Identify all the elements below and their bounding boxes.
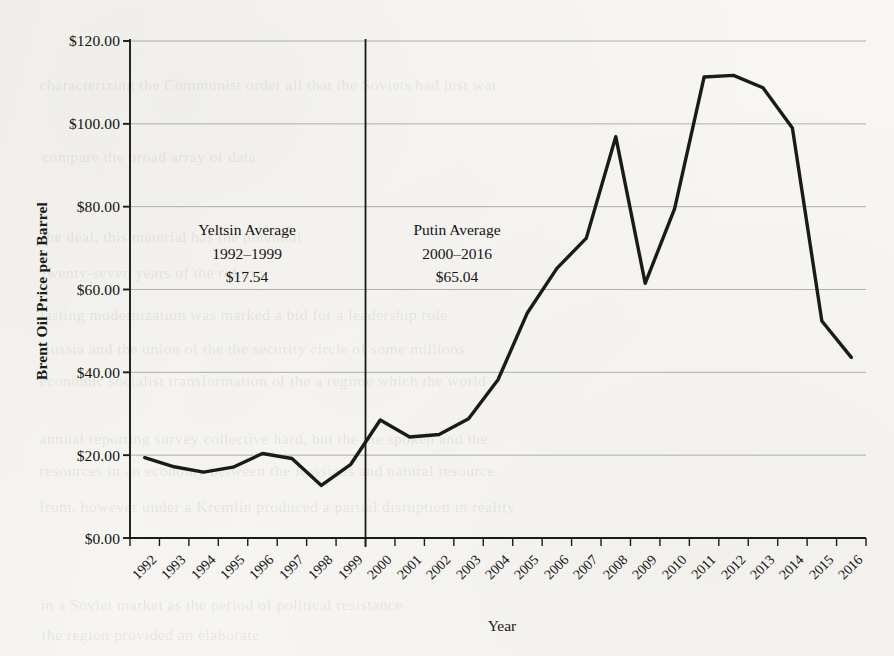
putin-label: Putin Average [372, 218, 542, 242]
putin-average: $65.04 [372, 265, 542, 289]
brent-oil-price-line-chart: Brent Oil Price per Barrel $120.00 $100.… [0, 0, 894, 656]
scanned-page: characterizing the Communist order all t… [0, 0, 894, 656]
yeltsin-years: 1992–1999 [152, 242, 342, 266]
annotation-yeltsin-average: Yeltsin Average 1992–1999 $17.54 [152, 218, 342, 289]
x-axis-ticks [130, 538, 866, 546]
yeltsin-label: Yeltsin Average [152, 218, 342, 242]
putin-years: 2000–2016 [372, 242, 542, 266]
annotation-putin-average: Putin Average 2000–2016 $65.04 [372, 218, 542, 289]
x-axis-title-text: Year [378, 617, 517, 634]
yeltsin-average: $17.54 [152, 265, 342, 289]
x-axis-title: Year [0, 617, 894, 635]
